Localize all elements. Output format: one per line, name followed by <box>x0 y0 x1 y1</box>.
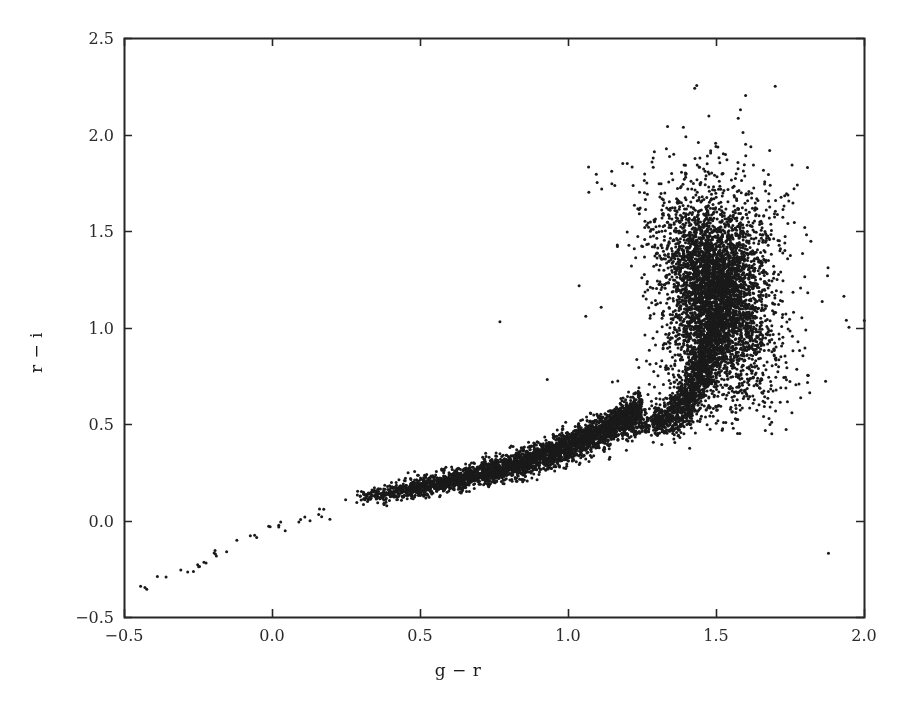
y-tick-label: 0.0 <box>89 511 114 530</box>
x-tick-label: 1.5 <box>703 626 728 645</box>
x-tick-label: −0.5 <box>105 626 144 645</box>
x-axis-label: g − r <box>0 660 916 680</box>
scatter-plot-canvas <box>0 0 916 705</box>
x-tick-label: 1.0 <box>555 626 580 645</box>
y-tick-label: 2.0 <box>89 125 114 144</box>
y-tick-label: 1.0 <box>89 318 114 337</box>
x-tick-label: 0.0 <box>259 626 284 645</box>
x-tick-label: 2.0 <box>851 626 876 645</box>
y-tick-label: 2.5 <box>89 29 114 48</box>
figure-container: g − r r − i −0.50.00.51.01.52.0 −0.50.00… <box>0 0 916 705</box>
y-tick-label: −0.5 <box>75 608 114 627</box>
y-tick-label: 1.5 <box>89 222 114 241</box>
x-tick-label: 0.5 <box>407 626 432 645</box>
y-tick-label: 0.5 <box>89 415 114 434</box>
